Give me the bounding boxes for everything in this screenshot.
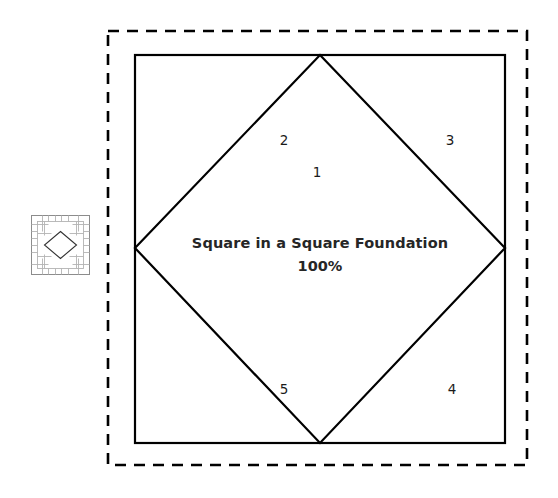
section-label-1: 1	[313, 164, 322, 180]
section-label-3: 3	[446, 132, 455, 148]
section-label-2: 2	[280, 132, 289, 148]
block-thumbnail-icon	[31, 213, 90, 277]
square-in-a-square-diagram: 2 3 1 5 4 Square in a Square Foundation …	[100, 22, 542, 477]
block-title: Square in a Square Foundation	[192, 235, 448, 251]
block-thumbnail-preview[interactable]	[31, 213, 90, 277]
pattern-canvas: 2 3 1 5 4 Square in a Square Foundation …	[100, 22, 542, 477]
section-label-4: 4	[448, 381, 457, 397]
section-label-5: 5	[280, 381, 289, 397]
block-scale-label: 100%	[298, 258, 343, 274]
